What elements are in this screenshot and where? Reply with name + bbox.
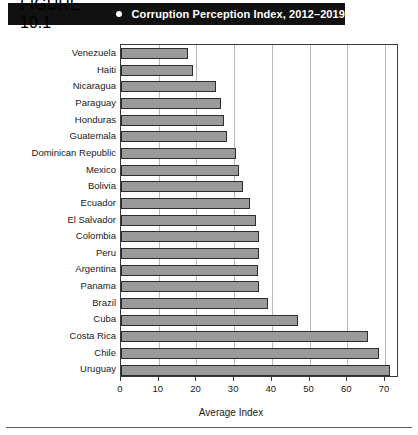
figure-header-bar: FIGURE 10.1 Corruption Perception Index,…	[8, 3, 345, 25]
bar-honduras	[121, 115, 224, 126]
x-tick-label-70: 70	[379, 383, 390, 394]
bar-row	[121, 228, 397, 245]
y-axis-label-honduras: Honduras	[0, 111, 116, 128]
y-axis-label-dominican-republic: Dominican Republic	[0, 144, 116, 161]
x-tick-label-20: 20	[190, 383, 201, 394]
y-axis-label-brazil: Brazil	[0, 294, 116, 311]
y-axis-label-ecuador: Ecuador	[0, 194, 116, 211]
bar-row	[121, 95, 397, 112]
x-tick-label-30: 30	[228, 383, 239, 394]
plot-area	[120, 44, 398, 377]
x-tick-30	[233, 377, 234, 381]
bar-haiti	[121, 65, 193, 76]
x-tick-40	[271, 377, 272, 381]
x-tick-label-60: 60	[341, 383, 352, 394]
y-axis-label-uruguay: Uruguay	[0, 360, 116, 377]
bar-chart-figure: VenezuelaHaitiNicaraguaParaguayHondurasG…	[0, 38, 418, 435]
bar-venezuela	[121, 48, 188, 59]
y-axis-label-nicaragua: Nicaragua	[0, 77, 116, 94]
x-axis-title: Average Index	[0, 407, 418, 418]
bar-costa-rica	[121, 331, 368, 342]
bar-dominican-republic	[121, 148, 236, 159]
y-axis-label-paraguay: Paraguay	[0, 94, 116, 111]
y-axis-label-peru: Peru	[0, 244, 116, 261]
y-axis-label-cuba: Cuba	[0, 310, 116, 327]
y-axis-label-venezuela: Venezuela	[0, 44, 116, 61]
bar-row	[121, 245, 397, 262]
x-tick-label-50: 50	[303, 383, 314, 394]
bar-chile	[121, 348, 379, 359]
bottom-divider	[6, 427, 412, 428]
x-tick-label-0: 0	[117, 383, 122, 394]
x-tick-10	[158, 377, 159, 381]
bar-row	[121, 261, 397, 278]
y-axis-label-chile: Chile	[0, 344, 116, 361]
bar-row	[121, 345, 397, 362]
bullet-dot-icon	[116, 11, 122, 17]
x-tick-20	[195, 377, 196, 381]
bar-peru	[121, 248, 259, 259]
bar-cuba	[121, 315, 298, 326]
y-axis-category-labels: VenezuelaHaitiNicaraguaParaguayHondurasG…	[0, 44, 116, 377]
bar-uruguay	[121, 365, 390, 376]
y-axis-label-argentina: Argentina	[0, 260, 116, 277]
x-tick-label-40: 40	[266, 383, 277, 394]
y-axis-label-mexico: Mexico	[0, 161, 116, 178]
bar-row	[121, 45, 397, 62]
bar-series	[121, 45, 397, 376]
y-axis-label-haiti: Haiti	[0, 61, 116, 78]
bar-row	[121, 328, 397, 345]
figure-number-label: FIGURE 10.1	[20, 0, 103, 32]
bar-brazil	[121, 298, 268, 309]
bar-paraguay	[121, 98, 221, 109]
bar-row	[121, 195, 397, 212]
bar-bolivia	[121, 181, 243, 192]
bar-row	[121, 128, 397, 145]
figure-title-label: Corruption Perception Index, 2012–2019	[132, 8, 345, 20]
bar-mexico	[121, 165, 239, 176]
y-axis-label-panama: Panama	[0, 277, 116, 294]
y-axis-label-guatemala: Guatemala	[0, 127, 116, 144]
y-axis-label-colombia: Colombia	[0, 227, 116, 244]
bar-row	[121, 62, 397, 79]
bar-guatemala	[121, 131, 227, 142]
bar-colombia	[121, 231, 259, 242]
bar-panama	[121, 281, 259, 292]
bar-row	[121, 78, 397, 95]
y-axis-label-el-salvador: El Salvador	[0, 211, 116, 228]
bar-argentina	[121, 265, 258, 276]
x-tick-50	[309, 377, 310, 381]
bar-row	[121, 278, 397, 295]
bar-row	[121, 112, 397, 129]
x-tick-label-10: 10	[152, 383, 163, 394]
x-tick-70	[384, 377, 385, 381]
bar-row	[121, 311, 397, 328]
bar-row	[121, 145, 397, 162]
x-tick-60	[346, 377, 347, 381]
y-axis-label-costa-rica: Costa Rica	[0, 327, 116, 344]
bar-row	[121, 162, 397, 179]
bar-nicaragua	[121, 81, 216, 92]
x-tick-0	[120, 377, 121, 381]
bar-row	[121, 178, 397, 195]
y-axis-label-bolivia: Bolivia	[0, 177, 116, 194]
bar-row	[121, 295, 397, 312]
bar-ecuador	[121, 198, 250, 209]
bar-el-salvador	[121, 215, 256, 226]
bar-row	[121, 212, 397, 229]
